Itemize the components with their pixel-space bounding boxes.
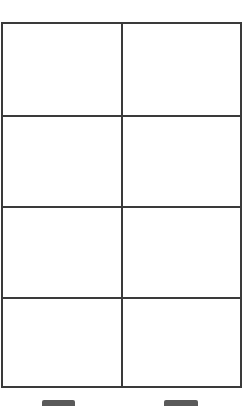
table-cell-r2-c2 <box>123 117 240 208</box>
table-cell-r3-c1 <box>3 208 123 299</box>
table-cell-r1-c1 <box>3 24 123 117</box>
table-cell-r4-c1 <box>3 299 123 386</box>
table-cell-r4-c2 <box>123 299 240 386</box>
footer-tab-left <box>42 400 75 406</box>
table-cell-r2-c1 <box>3 117 123 208</box>
footer-tab-right <box>164 400 198 406</box>
table-cell-r1-c2 <box>123 24 240 117</box>
table-cell-r3-c2 <box>123 208 240 299</box>
table-grid <box>1 22 242 388</box>
